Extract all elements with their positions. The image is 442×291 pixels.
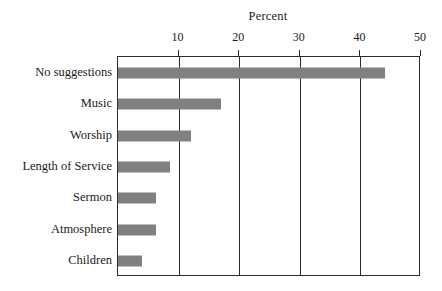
plot-area — [117, 56, 420, 276]
bar — [118, 193, 156, 204]
category-label: Music — [2, 96, 112, 111]
tick-label-50: 50 — [414, 30, 426, 45]
gridline-10 — [179, 57, 180, 275]
axis-title-text: Percent — [249, 9, 288, 23]
category-label: No suggestions — [2, 64, 112, 79]
tick-mark-50 — [420, 50, 421, 56]
gridline-40 — [360, 57, 361, 275]
y-axis-category-labels: No suggestionsMusicWorshipLength of Serv… — [0, 0, 112, 291]
bar — [118, 130, 191, 141]
bar-chart: Percent 1020304050 No suggestionsMusicWo… — [0, 0, 442, 291]
bar — [118, 224, 156, 235]
gridline-30 — [300, 57, 301, 275]
tick-label-30: 30 — [293, 30, 305, 45]
bar — [118, 67, 385, 78]
tick-label-10: 10 — [172, 30, 184, 45]
tick-label-40: 40 — [353, 30, 365, 45]
gridline-20 — [239, 57, 240, 275]
bar — [118, 99, 221, 110]
tick-label-20: 20 — [232, 30, 244, 45]
category-label: Worship — [2, 127, 112, 142]
category-label: Sermon — [2, 190, 112, 205]
category-label: Length of Service — [2, 159, 112, 174]
bar — [118, 256, 142, 267]
bar — [118, 162, 170, 173]
category-label: Atmosphere — [2, 221, 112, 236]
category-label: Children — [2, 253, 112, 268]
